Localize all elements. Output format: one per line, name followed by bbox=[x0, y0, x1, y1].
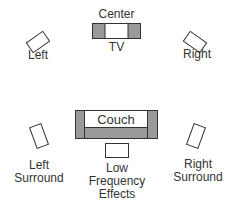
lfe-label: Low Frequency Effects bbox=[84, 162, 150, 201]
tv-label: TV bbox=[92, 41, 141, 54]
right-surround-speaker bbox=[187, 124, 206, 149]
right-label: Right bbox=[177, 48, 217, 61]
right-surround-label: Right Surround bbox=[170, 158, 226, 184]
lfe-speaker bbox=[106, 144, 129, 158]
left-surround-label: Left Surround bbox=[12, 159, 66, 185]
couch-label: Couch bbox=[84, 113, 148, 126]
center-label: Center bbox=[92, 8, 141, 21]
center-tv bbox=[93, 24, 141, 39]
left-surround-speaker bbox=[30, 124, 49, 149]
left-label: Left bbox=[20, 49, 56, 62]
